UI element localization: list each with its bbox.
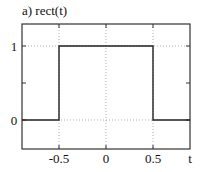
ytick-label-zero: 0 xyxy=(11,113,18,128)
xtick-label-neg-half: -0.5 xyxy=(49,151,70,166)
xtick-label-pos-half: 0.5 xyxy=(145,151,161,166)
x-axis-label: t xyxy=(188,151,192,166)
ytick-label-one: 1 xyxy=(11,39,18,54)
grid xyxy=(22,24,190,149)
xtick-label-zero: 0 xyxy=(103,151,110,166)
chart-canvas: 1 0 -0.5 0 0.5 t xyxy=(0,0,200,172)
